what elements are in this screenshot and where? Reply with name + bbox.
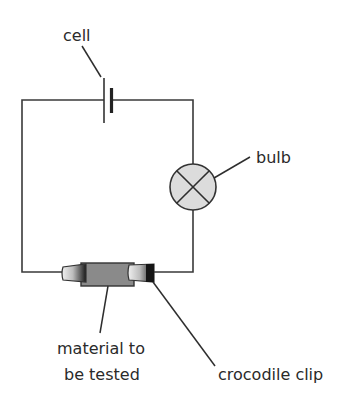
lamp-icon bbox=[170, 164, 216, 210]
cell-label: cell bbox=[63, 26, 91, 45]
cell-icon bbox=[104, 78, 112, 123]
material-leader-line bbox=[100, 286, 108, 333]
leader-lines bbox=[82, 46, 250, 366]
wire-bottom-right bbox=[154, 210, 193, 272]
wire-top-left bbox=[22, 100, 104, 272]
crocodile-clip-label: crocodile clip bbox=[218, 365, 323, 384]
circuit-wires bbox=[22, 100, 193, 272]
material-label-line2: be tested bbox=[64, 365, 140, 384]
crocodile-clip-right-icon bbox=[128, 264, 154, 282]
circuit-diagram: cell bulb material to be tested crocodil… bbox=[0, 0, 359, 404]
material-sample bbox=[81, 263, 134, 286]
crocodile-clip-leader-line bbox=[153, 282, 215, 366]
bulb-leader-line bbox=[214, 157, 250, 178]
material-label-line1: material to bbox=[57, 339, 145, 358]
crocodile-clip-left-icon bbox=[62, 264, 86, 282]
cell-leader-line bbox=[82, 46, 101, 77]
wire-top-right bbox=[111, 100, 193, 164]
bulb-label: bulb bbox=[256, 148, 291, 167]
